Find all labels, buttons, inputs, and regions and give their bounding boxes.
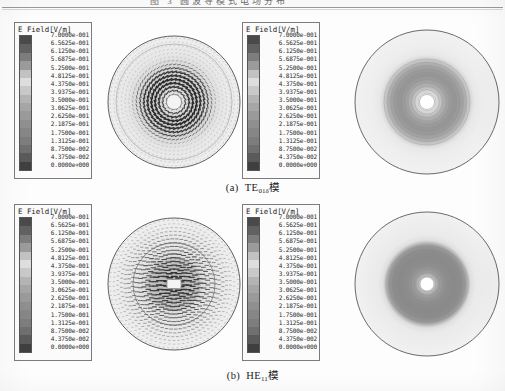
colorbar-tick-list: 7.0000e-0016.5625e-0016.1250e-0015.6875e… xyxy=(260,32,317,168)
colorbar-tick: 7.0000e-001 xyxy=(262,32,317,38)
colorbar-tick: 2.6250e-001 xyxy=(262,113,317,119)
colorbar-tick: 5.2500e-001 xyxy=(34,65,89,71)
colorbar-segment-3 xyxy=(20,243,31,251)
colorbar-segment-5 xyxy=(248,260,259,268)
colorbar-tick: 7.0000e-001 xyxy=(262,214,317,220)
colorbar-tick: 4.3750e-002 xyxy=(34,336,89,342)
te01-contour-svg xyxy=(352,18,502,186)
caption-index: (a) xyxy=(226,182,239,193)
colorbar-tick: 6.5625e-001 xyxy=(262,40,317,46)
colorbar-segment-8 xyxy=(248,103,259,111)
colorbar-segment-14 xyxy=(248,335,259,343)
colorbar-segment-10 xyxy=(20,302,31,310)
colorbar-segment-11 xyxy=(20,128,31,136)
colorbar-tick: 2.6250e-001 xyxy=(34,113,89,119)
legend-he11: E Field[V/m] 7.0000e-0016.5625e-0016.125… xyxy=(14,204,92,361)
legend-te01-contour: E Field[V/m] 7.0000e-0016.5625e-0016.125… xyxy=(242,22,320,179)
colorbar-segment-13 xyxy=(248,327,259,335)
colorbar-tick: 3.9375e-001 xyxy=(262,271,317,277)
colorbar-segment-5 xyxy=(20,260,31,268)
colorbar-segment-8 xyxy=(20,103,31,111)
colorbar-tick: 5.6875e-001 xyxy=(34,56,89,62)
colorbar-tick: 1.3125e-001 xyxy=(34,138,89,144)
colorbar-tick: 5.2500e-001 xyxy=(262,65,317,71)
legend-he11-contour: E Field[V/m] 7.0000e-0016.5625e-0016.125… xyxy=(242,204,320,361)
colorbar-segment-3 xyxy=(248,61,259,69)
colorbar-segment-3 xyxy=(248,243,259,251)
colorbar-tick: 7.0000e-001 xyxy=(34,214,89,220)
colorbar-segment-13 xyxy=(20,327,31,335)
colorbar-segment-0 xyxy=(248,218,259,226)
he11-contour-plot xyxy=(352,200,502,368)
colorbar-tick: 1.3125e-001 xyxy=(34,320,89,326)
colorbar-tick: 8.7500e-002 xyxy=(262,146,317,152)
he11-vector-plot xyxy=(104,200,244,368)
colorbar-tick: 5.6875e-001 xyxy=(262,238,317,244)
colorbar-tick: 0.0000e+000 xyxy=(34,162,89,168)
colorbar-segment-1 xyxy=(248,226,259,234)
colorbar-segment-4 xyxy=(248,252,259,260)
colorbar-tick: 5.6875e-001 xyxy=(262,56,317,62)
caption-mode: TE xyxy=(245,182,259,193)
colorbar-tick: 6.5625e-001 xyxy=(34,222,89,228)
colorbar-segment-2 xyxy=(248,235,259,243)
colorbar-segment-3 xyxy=(20,61,31,69)
colorbar-tick: 2.6250e-001 xyxy=(34,295,89,301)
top-horizontal-rule xyxy=(2,7,503,8)
colorbar-segment-9 xyxy=(248,111,259,119)
colorbar-segment-4 xyxy=(20,252,31,260)
colorbar-tick: 1.7500e-001 xyxy=(262,130,317,136)
colorbar-tick: 6.5625e-001 xyxy=(262,222,317,228)
caption-he11: (b) HE11模 xyxy=(0,367,505,383)
colorbar-tick: 6.1250e-001 xyxy=(34,230,89,236)
colorbar-segment-8 xyxy=(248,285,259,293)
legend-body: 7.0000e-0016.5625e-0016.1250e-0015.6875e… xyxy=(243,217,319,355)
legend-body: 7.0000e-0016.5625e-0016.1250e-0015.6875e… xyxy=(243,35,319,173)
colorbar-tick: 3.9375e-001 xyxy=(34,271,89,277)
colorbar-segment-1 xyxy=(20,226,31,234)
colorbar-tick: 4.3750e-002 xyxy=(262,336,317,342)
colorbar-tick: 4.3750e-001 xyxy=(34,81,89,87)
colorbar-tick: 7.0000e-001 xyxy=(34,32,89,38)
colorbar-segment-13 xyxy=(248,145,259,153)
colorbar-segment-0 xyxy=(248,36,259,44)
colorbar-tick: 8.7500e-002 xyxy=(262,328,317,334)
colorbar-segment-7 xyxy=(248,277,259,285)
colorbar-tick: 5.2500e-001 xyxy=(262,247,317,253)
colorbar-segment-10 xyxy=(248,120,259,128)
colorbar-segment-0 xyxy=(20,218,31,226)
colorbar-segment-6 xyxy=(20,268,31,276)
colorbar-segment-10 xyxy=(20,120,31,128)
colorbar-segment-7 xyxy=(20,277,31,285)
colorbar-segment-1 xyxy=(248,44,259,52)
colorbar-tick: 2.1875e-001 xyxy=(262,121,317,127)
he11-vector-svg xyxy=(104,200,244,368)
te01-contour-plot xyxy=(352,18,502,186)
caption-index: (b) xyxy=(227,370,240,381)
colorbar xyxy=(19,35,32,171)
legend-body: 7.0000e-0016.5625e-0016.1250e-0015.6875e… xyxy=(15,217,91,355)
colorbar-tick: 4.8125e-001 xyxy=(34,255,89,261)
colorbar-segment-12 xyxy=(20,319,31,327)
caption-mode: HE xyxy=(246,370,261,381)
legend-body: 7.0000e-0016.5625e-0016.1250e-0015.6875e… xyxy=(15,35,91,173)
colorbar-tick: 4.3750e-002 xyxy=(34,154,89,160)
colorbar-tick: 8.7500e-002 xyxy=(34,328,89,334)
colorbar-segment-9 xyxy=(20,111,31,119)
colorbar-tick: 0.0000e+000 xyxy=(262,162,317,168)
colorbar-tick: 6.1250e-001 xyxy=(34,48,89,54)
colorbar xyxy=(247,217,260,353)
colorbar-tick: 6.5625e-001 xyxy=(34,40,89,46)
colorbar-tick: 3.5000e-001 xyxy=(262,97,317,103)
colorbar-segment-14 xyxy=(248,153,259,161)
colorbar-segment-12 xyxy=(248,319,259,327)
colorbar-segment-14 xyxy=(20,335,31,343)
colorbar-segment-12 xyxy=(20,137,31,145)
colorbar-segment-8 xyxy=(20,285,31,293)
colorbar-segment-5 xyxy=(248,78,259,86)
top-horizontal-rule-shadow xyxy=(2,9,503,10)
colorbar-segment-6 xyxy=(248,268,259,276)
colorbar-tick: 3.5000e-001 xyxy=(34,97,89,103)
colorbar-segment-11 xyxy=(20,310,31,318)
colorbar-segment-15 xyxy=(248,162,259,170)
